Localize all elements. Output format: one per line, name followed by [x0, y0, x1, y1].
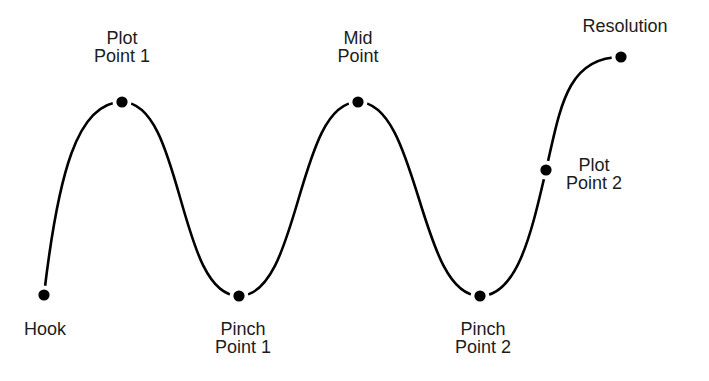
- plot-point-1-label-line: Point 1: [94, 46, 150, 66]
- pinch-point-1-dot: [233, 290, 244, 301]
- mid-point-label-line: Mid: [343, 28, 372, 48]
- plot-point-2-dot: [540, 164, 551, 175]
- story-structure-diagram: HookPlotPoint 1PinchPoint 1MidPointPinch…: [0, 0, 709, 381]
- dot-gaps: [35, 48, 631, 306]
- pinch-point-2-label-line: Pinch: [460, 319, 505, 339]
- pinch-point-2-dot: [474, 290, 485, 301]
- hook-label: Hook: [24, 319, 67, 339]
- pinch-point-1-label-line: Point 1: [215, 337, 271, 357]
- resolution-label-line: Resolution: [582, 16, 667, 36]
- pinch-point-2-label-line: Point 2: [455, 337, 511, 357]
- resolution-dot: [615, 51, 626, 62]
- resolution-label: Resolution: [582, 16, 667, 36]
- mid-point-dot: [352, 96, 363, 107]
- mid-point-label: MidPoint: [337, 28, 378, 66]
- milestone-dots: [38, 51, 626, 301]
- milestone-labels: HookPlotPoint 1PinchPoint 1MidPointPinch…: [24, 16, 668, 357]
- plot-point-1-label-line: Plot: [106, 28, 137, 48]
- plot-point-1-dot: [116, 96, 127, 107]
- hook-label-line: Hook: [24, 319, 67, 339]
- pinch-point-2-label: PinchPoint 2: [455, 319, 511, 357]
- plot-point-2-label-line: Point 2: [566, 173, 622, 193]
- pinch-point-1-label: PinchPoint 1: [215, 319, 271, 357]
- story-arc-curve: [44, 57, 621, 296]
- plot-point-2-label: PlotPoint 2: [566, 155, 622, 193]
- plot-point-1-label: PlotPoint 1: [94, 28, 150, 66]
- pinch-point-1-label-line: Pinch: [220, 319, 265, 339]
- plot-point-2-label-line: Plot: [578, 155, 609, 175]
- hook-dot: [38, 289, 49, 300]
- mid-point-label-line: Point: [337, 46, 378, 66]
